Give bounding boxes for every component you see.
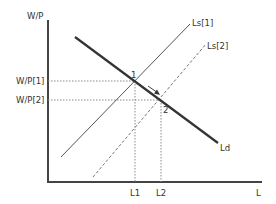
l2-tick-label: L2	[156, 188, 166, 198]
ls1-curve	[61, 24, 190, 157]
x-axis-label: L	[256, 188, 261, 198]
wp1-tick-label: W/P[1]	[16, 76, 44, 86]
l1-tick-label: L1	[130, 188, 140, 198]
ls2-label: Ls[2]	[207, 41, 228, 51]
wp2-tick-label: W/P[2]	[16, 95, 44, 105]
point-1-label: 1	[131, 70, 136, 80]
ld-label: Ld	[220, 143, 230, 153]
y-axis-label: W/P	[27, 11, 43, 21]
labor-market-diagram: W/P L Ls[1] Ls[2] Ld 1 2 W/P[1] W/P[2] L…	[0, 0, 276, 204]
diagram-canvas: W/P L Ls[1] Ls[2] Ld 1 2 W/P[1] W/P[2] L…	[0, 0, 276, 204]
ls1-label: Ls[1]	[192, 18, 213, 28]
point-2-label: 2	[163, 105, 168, 115]
ld-curve	[75, 37, 218, 143]
